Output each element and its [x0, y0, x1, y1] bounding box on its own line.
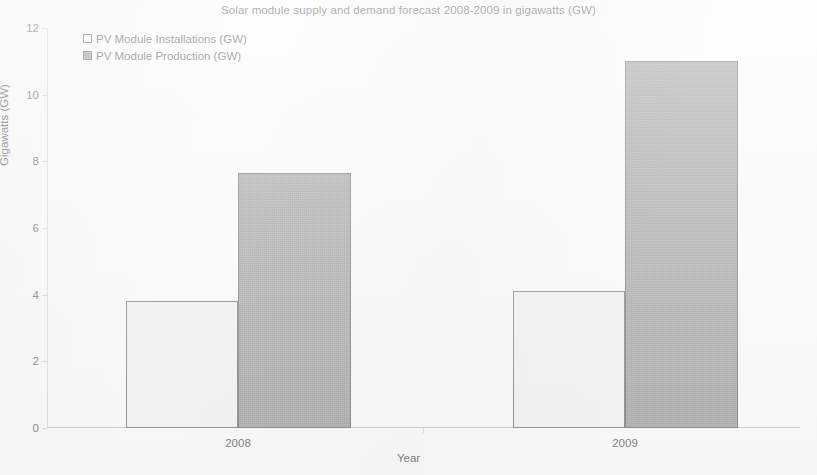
- bar-2008-production[interactable]: [238, 173, 351, 428]
- y-tick-label: 0: [33, 422, 39, 434]
- y-tick-mark: [42, 161, 47, 162]
- chart-title: Solar module supply and demand forecast …: [0, 4, 817, 16]
- legend-item-installations[interactable]: PV Module Installations (GW): [83, 30, 247, 47]
- legend-swatch-icon: [83, 51, 92, 60]
- plot-area: 0 2 4 6 8 10 12: [47, 28, 800, 428]
- y-tick-label: 12: [26, 22, 39, 34]
- y-tick-label: 4: [33, 289, 39, 301]
- y-axis-line: [47, 28, 48, 428]
- y-axis-title: Gigawatts (GW): [0, 65, 10, 185]
- bar-chart: Solar module supply and demand forecast …: [0, 0, 817, 475]
- y-tick-label: 2: [33, 355, 39, 367]
- y-tick-mark: [42, 228, 47, 229]
- bar-2009-production[interactable]: [625, 61, 738, 428]
- bar-2009-installations[interactable]: [513, 291, 625, 428]
- y-tick-mark: [42, 95, 47, 96]
- y-tick-mark: [42, 28, 47, 29]
- legend-label: PV Module Production (GW): [96, 50, 241, 62]
- y-tick-mark: [42, 295, 47, 296]
- legend-item-production[interactable]: PV Module Production (GW): [83, 47, 247, 64]
- legend-label: PV Module Installations (GW): [96, 33, 247, 45]
- legend-swatch-icon: [83, 34, 92, 43]
- y-tick-label: 6: [33, 222, 39, 234]
- x-axis-title: Year: [0, 452, 817, 464]
- bar-2008-installations[interactable]: [126, 301, 238, 428]
- legend: PV Module Installations (GW) PV Module P…: [83, 30, 247, 64]
- x-category-separator-tick: [423, 428, 424, 433]
- y-tick-label: 10: [26, 89, 39, 101]
- y-tick-label: 8: [33, 155, 39, 167]
- x-category-label-2009: 2009: [612, 437, 638, 449]
- y-tick-mark: [42, 361, 47, 362]
- y-tick-mark: [42, 428, 47, 429]
- x-category-label-2008: 2008: [225, 437, 251, 449]
